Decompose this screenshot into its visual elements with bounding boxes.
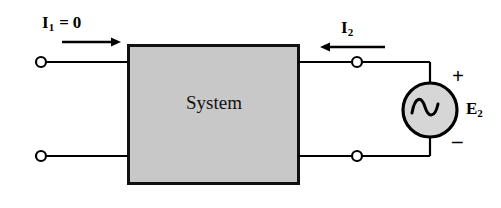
i2-subscript: 2 [348, 26, 354, 38]
e2-subscript: 2 [477, 107, 483, 119]
e2-symbol: E [466, 99, 477, 118]
terminal-bottom-left [36, 151, 46, 161]
i2-symbol: I [341, 18, 348, 37]
i1-value: 0 [73, 13, 82, 32]
i1-symbol: I [42, 13, 49, 32]
polarity-plus-sign: + [452, 66, 464, 87]
circuit-diagram: I1=0 I2 E2 + – System [0, 0, 501, 208]
current-arrow-i2 [320, 43, 385, 52]
terminal-top-right [352, 57, 362, 67]
label-current-i1: I1=0 [42, 14, 81, 33]
label-voltage-e2: E2 [466, 100, 483, 119]
system-block [129, 46, 299, 184]
current-arrow-i1 [62, 38, 121, 47]
terminal-top-left [36, 57, 46, 67]
i1-equals: = [54, 13, 73, 32]
system-block-label: System [0, 93, 428, 112]
terminal-bottom-right [352, 151, 362, 161]
polarity-minus-sign: – [452, 131, 463, 152]
label-current-i2: I2 [341, 19, 353, 38]
